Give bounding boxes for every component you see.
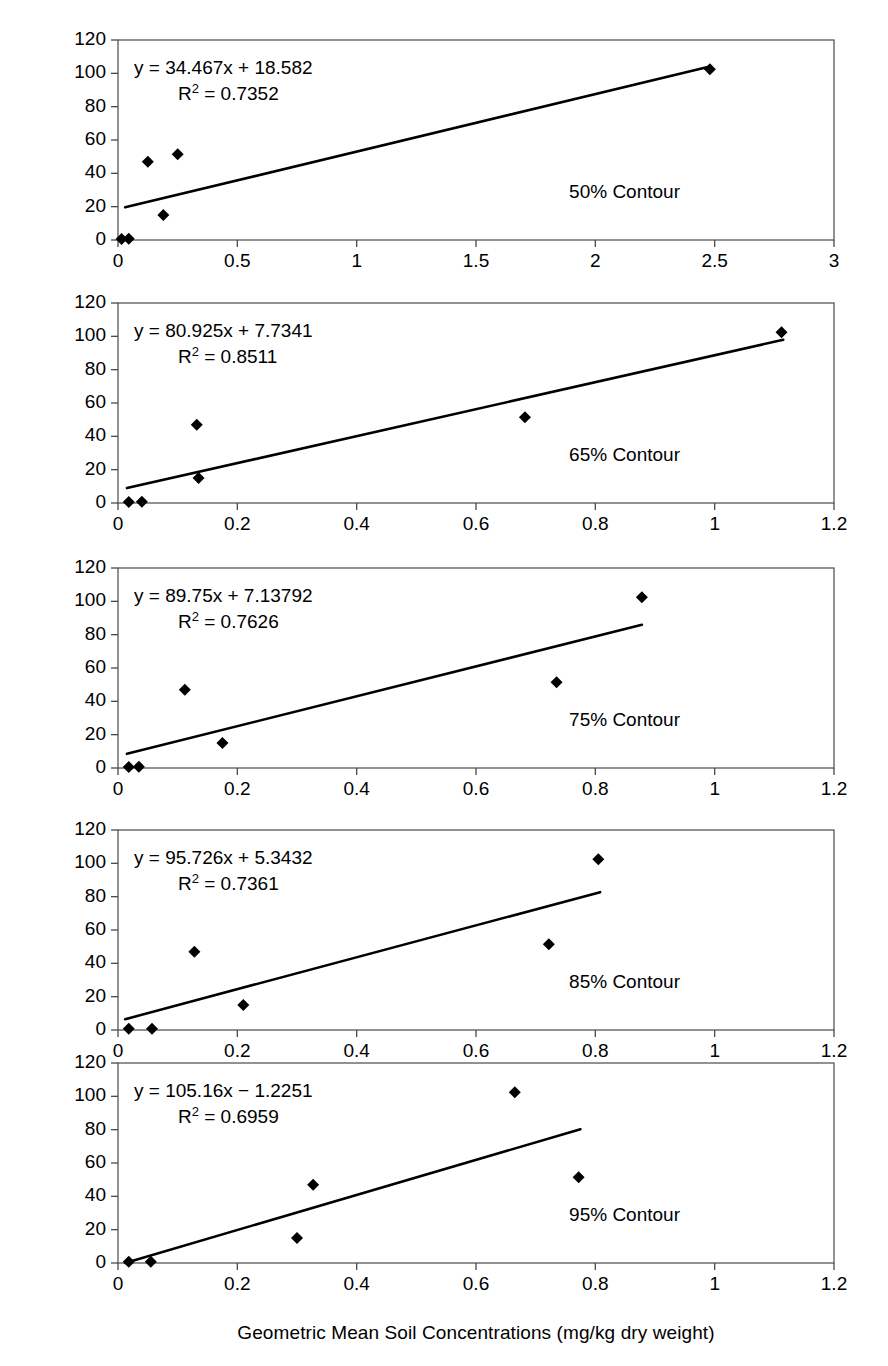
x-tick-label: 0.4: [343, 513, 370, 534]
y-tick-label: 80: [85, 358, 106, 379]
y-tick-label: 40: [85, 424, 106, 445]
data-point-marker: [142, 156, 154, 168]
x-tick-label: 0.2: [224, 1273, 250, 1294]
regression-equation: y = 95.726x + 5.3432: [134, 847, 313, 868]
regression-equation: y = 89.75x + 7.13792: [134, 585, 313, 606]
y-tick-label: 20: [85, 195, 106, 216]
x-tick-label: 0.6: [463, 1273, 489, 1294]
y-tick-label: 80: [85, 885, 106, 906]
x-tick-label: 0.8: [582, 513, 608, 534]
data-point-marker: [573, 1171, 585, 1183]
y-tick-label: 20: [85, 458, 106, 479]
data-point-marker: [636, 591, 648, 603]
x-axis-label: Geometric Mean Soil Concentrations (mg/k…: [118, 1322, 834, 1344]
y-tick-label: 120: [74, 291, 106, 312]
r-squared-label: R2 = 0.7361: [178, 871, 279, 894]
y-tick-label: 100: [74, 61, 106, 82]
chart-panel-1: 02040608010012000.511.522.53y = 34.467x …: [0, 6, 888, 286]
y-tick-label: 60: [85, 656, 106, 677]
y-tick-label: 20: [85, 985, 106, 1006]
data-point-marker: [237, 999, 249, 1011]
y-tick-label: 100: [74, 1084, 106, 1105]
x-tick-label: 0.4: [343, 1273, 370, 1294]
data-point-marker: [123, 761, 135, 773]
regression-line: [127, 625, 642, 754]
data-point-marker: [307, 1179, 319, 1191]
data-point-marker: [179, 684, 191, 696]
x-tick-label: 0.8: [582, 1273, 608, 1294]
data-point-marker: [509, 1086, 521, 1098]
y-tick-label: 120: [74, 556, 106, 577]
y-tick-label: 40: [85, 161, 106, 182]
figure-panel-stack: Dieldrin Plasma Concentrations (µg/mL) 0…: [0, 0, 888, 1366]
x-tick-label: 1: [709, 513, 720, 534]
chart-panel-2: 02040608010012000.20.40.60.811.2y = 80.9…: [0, 269, 888, 549]
data-point-marker: [123, 1256, 135, 1268]
y-tick-label: 0: [95, 228, 106, 249]
x-tick-label: 0.2: [224, 513, 250, 534]
data-point-marker: [191, 419, 203, 431]
y-tick-label: 80: [85, 95, 106, 116]
contour-annotation: 50% Contour: [569, 181, 681, 202]
y-tick-label: 40: [85, 951, 106, 972]
x-tick-label: 1.5: [463, 250, 489, 271]
data-point-marker: [136, 496, 148, 508]
regression-equation: y = 34.467x + 18.582: [134, 57, 313, 78]
chart-panel-3: 02040608010012000.20.40.60.811.2y = 89.7…: [0, 534, 888, 814]
data-point-marker: [172, 148, 184, 160]
y-tick-label: 120: [74, 818, 106, 839]
chart-panel-5: 02040608010012000.20.40.60.811.2y = 105.…: [0, 1029, 888, 1309]
data-point-marker: [157, 209, 169, 221]
y-tick-label: 20: [85, 1218, 106, 1239]
y-tick-label: 100: [74, 589, 106, 610]
data-point-marker: [123, 233, 135, 245]
r-squared-label: R2 = 0.6959: [178, 1104, 279, 1127]
x-tick-label: 1.2: [821, 1273, 847, 1294]
x-tick-label: 0: [113, 513, 124, 534]
y-tick-label: 0: [95, 1251, 106, 1272]
data-point-marker: [592, 853, 604, 865]
y-tick-label: 0: [95, 491, 106, 512]
y-tick-label: 60: [85, 391, 106, 412]
data-point-marker: [133, 761, 145, 773]
data-point-marker: [123, 496, 135, 508]
y-tick-label: 40: [85, 1184, 106, 1205]
x-tick-label: 0: [113, 1273, 124, 1294]
r-squared-label: R2 = 0.7626: [178, 609, 279, 632]
y-tick-label: 80: [85, 623, 106, 644]
data-point-marker: [519, 411, 531, 423]
y-tick-label: 80: [85, 1118, 106, 1139]
y-tick-label: 20: [85, 723, 106, 744]
y-tick-label: 60: [85, 128, 106, 149]
y-tick-label: 60: [85, 918, 106, 939]
data-point-marker: [291, 1232, 303, 1244]
y-tick-label: 100: [74, 851, 106, 872]
contour-annotation: 85% Contour: [569, 971, 681, 992]
y-tick-label: 60: [85, 1151, 106, 1172]
regression-line: [125, 892, 600, 1019]
x-tick-label: 3: [829, 250, 840, 271]
contour-annotation: 65% Contour: [569, 444, 681, 465]
data-point-marker: [775, 326, 787, 338]
x-tick-label: 0.5: [224, 250, 250, 271]
data-point-marker: [704, 63, 716, 75]
x-tick-label: 0: [113, 250, 124, 271]
data-point-marker: [188, 946, 200, 958]
data-point-marker: [543, 938, 555, 950]
x-tick-label: 2.5: [701, 250, 727, 271]
x-tick-label: 2: [590, 250, 601, 271]
r-squared-label: R2 = 0.7352: [178, 81, 279, 104]
y-tick-label: 120: [74, 28, 106, 49]
contour-annotation: 75% Contour: [569, 709, 681, 730]
x-tick-label: 1: [351, 250, 362, 271]
data-point-marker: [551, 676, 563, 688]
y-tick-label: 40: [85, 689, 106, 710]
regression-line: [125, 1129, 580, 1263]
regression-equation: y = 105.16x − 1.2251: [134, 1080, 313, 1101]
y-tick-label: 0: [95, 756, 106, 777]
x-tick-label: 0.6: [463, 513, 489, 534]
x-tick-label: 1: [709, 1273, 720, 1294]
y-tick-label: 120: [74, 1051, 106, 1072]
contour-annotation: 95% Contour: [569, 1204, 681, 1225]
data-point-marker: [216, 737, 228, 749]
